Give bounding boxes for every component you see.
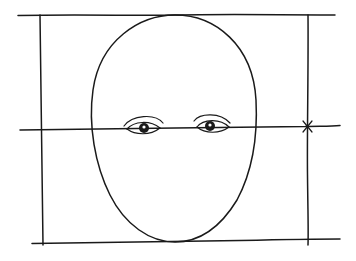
left-eye [124,117,163,134]
right-guide-line [307,15,308,245]
sketch-svg [0,0,356,261]
eye-line [20,126,340,131]
right-eye-highlight [208,123,211,126]
left-eye-highlight [142,125,145,128]
right-eye [194,115,230,132]
face-proportion-diagram [0,0,356,261]
